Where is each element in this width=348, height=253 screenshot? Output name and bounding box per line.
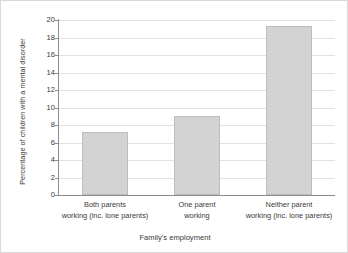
gridline	[59, 20, 335, 21]
x-axis-title: Family's employment	[1, 233, 348, 242]
y-tick-label: 6	[39, 139, 55, 147]
bar	[174, 116, 220, 195]
y-tick-mark	[55, 178, 58, 179]
x-tick-label-line: working (inc. lone parents)	[224, 211, 348, 222]
y-tick-label: 12	[39, 86, 55, 94]
y-tick-label: 2	[39, 174, 55, 182]
y-tick-label: 8	[39, 121, 55, 129]
y-tick-label: 16	[39, 51, 55, 59]
y-tick-mark	[55, 90, 58, 91]
x-tick-label-line: Neither parent	[224, 200, 348, 211]
y-tick-label: 14	[39, 69, 55, 77]
y-tick-mark	[55, 195, 58, 196]
y-tick-label: 10	[39, 104, 55, 112]
y-tick-mark	[55, 55, 58, 56]
plot-area	[59, 20, 335, 195]
x-axis-tick-labels: Both parentsworking (inc. lone parents)O…	[59, 200, 335, 230]
y-tick-mark	[55, 125, 58, 126]
y-tick-label: 20	[39, 16, 55, 24]
bar	[82, 132, 128, 195]
y-tick-mark	[55, 160, 58, 161]
y-axis-title: Percentage of children with a mental dis…	[16, 19, 30, 204]
y-tick-label: 4	[39, 156, 55, 164]
y-tick-mark	[55, 20, 58, 21]
bar	[266, 26, 312, 195]
x-tick-label: Neither parentworking (inc. lone parents…	[224, 200, 348, 221]
y-tick-label: 0	[39, 191, 55, 199]
y-tick-mark	[55, 108, 58, 109]
y-tick-mark	[55, 38, 58, 39]
x-axis-baseline	[59, 195, 335, 196]
chart-figure: Percentage of children with a mental dis…	[0, 0, 348, 253]
y-tick-mark	[55, 143, 58, 144]
y-axis-tick-labels: 02468101214161820	[37, 20, 55, 195]
y-tick-label: 18	[39, 34, 55, 42]
y-tick-mark	[55, 73, 58, 74]
